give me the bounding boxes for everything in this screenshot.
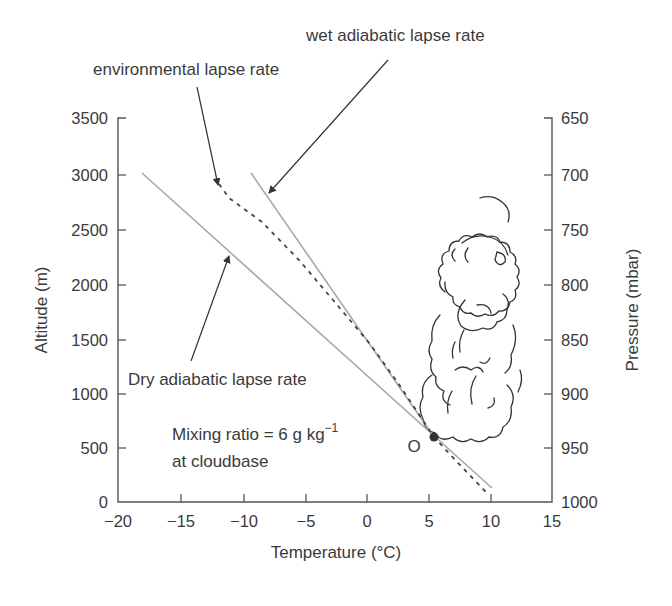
axis-frame <box>118 118 552 502</box>
dry-lapse-label: Dry adiabatic lapse rate <box>128 370 307 389</box>
x-tick-labels: −20 −15 −10 −5 0 5 10 15 <box>104 512 561 530</box>
svg-text:5: 5 <box>424 512 433 530</box>
svg-text:2500: 2500 <box>71 221 108 239</box>
svg-text:1000: 1000 <box>561 493 598 511</box>
svg-text:0: 0 <box>362 512 371 530</box>
svg-text:650: 650 <box>561 109 589 127</box>
svg-text:15: 15 <box>543 512 561 530</box>
dry-arrow <box>191 256 229 361</box>
y2-tick-labels: 650 700 750 800 850 900 950 1000 <box>561 109 598 511</box>
svg-text:900: 900 <box>561 385 589 403</box>
svg-text:1500: 1500 <box>71 331 108 349</box>
y-tick-labels: 3500 3000 2500 2000 1500 1000 500 0 <box>71 109 108 511</box>
svg-text:10: 10 <box>482 512 500 530</box>
cumulus-cloud-illustration <box>420 197 522 442</box>
point-o-label: O <box>407 437 420 456</box>
x-axis-label: Temperature (°C) <box>271 543 402 562</box>
wet-arrow <box>269 60 388 193</box>
svg-text:0: 0 <box>99 493 108 511</box>
x-axis-ticks <box>181 494 491 502</box>
env-lapse-label: environmental lapse rate <box>93 60 279 79</box>
wet-lapse-label: wet adiabatic lapse rate <box>305 26 485 45</box>
svg-text:850: 850 <box>561 331 589 349</box>
y2-axis-label: Pressure (mbar) <box>623 249 642 372</box>
svg-text:2000: 2000 <box>71 276 108 294</box>
y-axis-ticks <box>118 175 126 448</box>
svg-text:3500: 3500 <box>71 109 108 127</box>
wet-adiabatic-line <box>251 173 434 437</box>
lapse-rate-chart: 3500 3000 2500 2000 1500 1000 500 0 650 … <box>0 0 672 606</box>
svg-text:−10: −10 <box>230 512 258 530</box>
svg-text:−5: −5 <box>297 512 316 530</box>
svg-text:500: 500 <box>80 439 108 457</box>
svg-text:3000: 3000 <box>71 166 108 184</box>
svg-text:700: 700 <box>561 166 589 184</box>
y-axis-label: Altitude (m) <box>32 267 51 354</box>
mixing-ratio-label: Mixing ratio = 6 g kg−1 <box>172 421 339 444</box>
cloudbase-label: at cloudbase <box>172 452 268 471</box>
cloudbase-point <box>430 433 439 442</box>
env-arrow <box>197 87 218 185</box>
svg-text:1000: 1000 <box>71 385 108 403</box>
svg-text:800: 800 <box>561 276 589 294</box>
axes <box>118 118 552 502</box>
svg-text:950: 950 <box>561 439 589 457</box>
y2-axis-ticks <box>544 175 552 448</box>
svg-text:−20: −20 <box>104 512 132 530</box>
svg-text:−15: −15 <box>167 512 195 530</box>
svg-text:750: 750 <box>561 221 589 239</box>
